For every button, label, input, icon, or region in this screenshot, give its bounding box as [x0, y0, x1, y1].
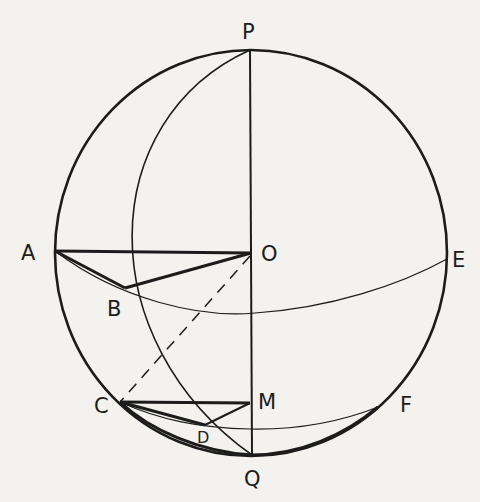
segment-bo — [125, 253, 251, 288]
latitude-arc-cdf — [120, 402, 378, 429]
label-o: O — [261, 244, 278, 265]
label-a: A — [21, 243, 35, 264]
segment-dm — [205, 403, 250, 425]
segment-ao — [55, 251, 251, 253]
segment-cm — [120, 402, 250, 403]
label-m: M — [258, 392, 276, 413]
segment-oc-dashed — [120, 256, 250, 402]
segment-ab — [55, 251, 125, 288]
label-f: F — [400, 395, 412, 416]
label-q: Q — [244, 469, 261, 490]
label-p: P — [242, 22, 255, 43]
label-e: E — [452, 250, 465, 271]
label-c: C — [94, 396, 109, 417]
label-b: B — [107, 299, 121, 320]
label-d: D — [197, 430, 209, 446]
sphere-diagram — [0, 0, 480, 502]
